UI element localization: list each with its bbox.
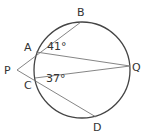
circle-diagram: B A P C Q D 41° 37°: [0, 0, 144, 140]
chord-AQ: [36, 52, 130, 66]
label-C: C: [24, 79, 32, 92]
label-A: A: [24, 41, 32, 54]
label-B: B: [77, 6, 85, 19]
angle-label-C: 37°: [46, 72, 66, 85]
label-P: P: [4, 64, 11, 77]
circle: [34, 22, 130, 118]
angle-label-A: 41°: [47, 40, 67, 53]
label-Q: Q: [132, 61, 141, 74]
label-D: D: [93, 121, 101, 134]
